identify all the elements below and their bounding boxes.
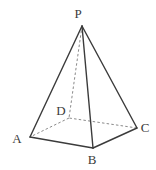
vertex-label-A: A: [12, 131, 22, 146]
square-pyramid-diagram: P A B C D: [0, 0, 156, 170]
edge-PA: [30, 26, 82, 137]
edge-BC: [93, 128, 137, 148]
vertex-label-C: C: [141, 120, 150, 135]
vertex-label-D: D: [56, 103, 65, 118]
edge-AB: [30, 137, 93, 148]
edge-DA-hidden: [30, 118, 69, 137]
edge-CD-hidden: [69, 118, 137, 128]
vertex-label-P: P: [74, 6, 81, 21]
geometry-figure-canvas: P A B C D: [0, 0, 156, 170]
vertex-label-B: B: [88, 152, 97, 167]
